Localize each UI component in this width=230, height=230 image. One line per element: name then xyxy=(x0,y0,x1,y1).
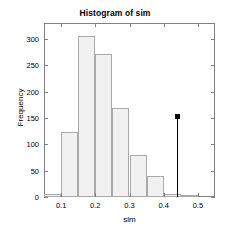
histogram-figure: Histogram of sim 0.10.20.30.40.505010015… xyxy=(0,0,230,230)
x-tick-label: 0.5 xyxy=(183,201,213,210)
y-tick xyxy=(44,144,48,145)
histogram-bar xyxy=(130,155,147,197)
histogram-bar xyxy=(95,54,112,197)
x-tick-top xyxy=(198,23,199,27)
y-tick-right xyxy=(211,39,215,40)
histogram-bar xyxy=(78,36,95,197)
x-tick xyxy=(198,193,199,197)
histogram-bar xyxy=(112,108,129,197)
y-tick-label: 0 xyxy=(17,193,39,202)
histogram-bar xyxy=(181,195,198,197)
x-tick xyxy=(130,193,131,197)
y-tick xyxy=(44,92,48,93)
y-tick xyxy=(44,65,48,66)
x-tick xyxy=(95,193,96,197)
x-tick-top xyxy=(61,23,62,27)
page-title: Histogram of sim xyxy=(0,8,230,18)
x-tick-top xyxy=(95,23,96,27)
observed-value-marker-point xyxy=(175,114,180,119)
y-tick-right xyxy=(211,65,215,66)
observed-value-marker-line xyxy=(177,116,178,197)
x-tick xyxy=(164,193,165,197)
y-tick-right xyxy=(211,197,215,198)
y-tick-right xyxy=(211,118,215,119)
y-tick xyxy=(44,197,48,198)
x-axis-title: sim xyxy=(44,215,215,224)
histogram-bar xyxy=(147,176,164,197)
x-tick-label: 0.3 xyxy=(115,201,145,210)
y-tick-label: 300 xyxy=(17,35,39,44)
histogram-bar xyxy=(61,132,78,197)
x-tick-label: 0.1 xyxy=(46,201,76,210)
x-tick-top xyxy=(164,23,165,27)
y-tick-right xyxy=(211,144,215,145)
y-tick-right xyxy=(211,92,215,93)
y-tick xyxy=(44,171,48,172)
y-tick xyxy=(44,39,48,40)
y-axis-title: Frequency xyxy=(16,48,25,168)
x-tick-label: 0.4 xyxy=(149,201,179,210)
y-tick-label: 50 xyxy=(17,167,39,176)
plot-area xyxy=(44,23,215,197)
y-tick xyxy=(44,118,48,119)
x-tick-top xyxy=(130,23,131,27)
x-tick xyxy=(61,193,62,197)
x-tick-label: 0.2 xyxy=(80,201,110,210)
y-tick-right xyxy=(211,171,215,172)
